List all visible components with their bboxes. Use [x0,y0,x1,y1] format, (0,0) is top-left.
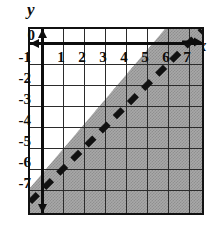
graph-figure: y x [0,0,214,228]
y-tick-label--1: -1 [9,50,31,65]
x-tick-label-5: 5 [136,50,154,65]
y-axis-label: y [27,1,35,18]
x-tick-label-3: 3 [94,50,112,65]
y-tick-label--5: -5 [9,134,31,149]
y-tick-label--7: -7 [9,176,31,191]
y-tick-label--3: -3 [9,92,31,107]
y-tick-label-0: 0 [13,28,35,43]
x-tick-label-1: 1 [52,50,70,65]
x-tick-label-6: 6 [157,50,175,65]
x-tick-label-7: 7 [178,50,196,65]
y-tick-label--2: -2 [9,71,31,86]
y-tick-label--4: -4 [9,113,31,128]
x-tick-label-2: 2 [73,50,91,65]
y-tick-label--6: -6 [9,155,31,170]
x-axis-arrow-right [182,36,202,48]
x-tick-label-4: 4 [115,50,133,65]
